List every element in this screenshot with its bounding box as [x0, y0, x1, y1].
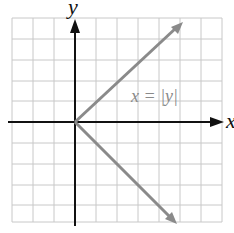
- grid: [12, 18, 222, 222]
- graph: y x x = |y|: [0, 0, 234, 233]
- y-axis-arrow-icon: [70, 19, 80, 33]
- lower-ray: [75, 122, 171, 218]
- plot-area: [0, 0, 234, 233]
- y-axis-label: y: [68, 0, 78, 20]
- upper-ray: [75, 28, 176, 122]
- axes: [8, 30, 214, 226]
- equation-label: x = |y|: [131, 86, 178, 107]
- x-axis-label: x: [226, 108, 234, 134]
